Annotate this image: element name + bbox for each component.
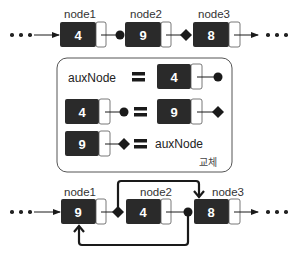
bottom-link-diamond-icon	[112, 206, 124, 218]
bottom-node1-box	[61, 199, 106, 224]
bottom-node2-label: node2	[140, 187, 172, 199]
row2-circle-icon	[120, 108, 129, 117]
row2-left-node-value: 4	[78, 106, 85, 119]
bottom-node1-value: 9	[74, 206, 81, 219]
bottom-node2-value: 4	[139, 206, 146, 219]
row3-left-node-value: 9	[78, 138, 85, 151]
row3-left-node-box	[65, 131, 110, 156]
row2-left-node-box	[65, 99, 110, 124]
bottom-node3-box	[194, 199, 240, 224]
swap-caption: 교체	[199, 158, 217, 168]
diagram-graphics	[0, 0, 298, 257]
bottom-link-circle-icon	[184, 208, 193, 217]
bottom-node1-label: node1	[64, 187, 96, 199]
top-node3-box	[193, 22, 240, 47]
bottom-node3-value: 8	[207, 206, 214, 219]
top-link-circle-icon	[116, 31, 125, 40]
top-node2-label: node2	[130, 9, 162, 21]
bottom-node2-box	[126, 199, 171, 224]
row3-aux-node-text: auxNode	[155, 138, 203, 150]
top-link-diamond-icon	[180, 29, 192, 41]
top-node1-value: 4	[74, 29, 81, 42]
top-node3-value: 8	[207, 29, 214, 42]
bottom-node3-label: node3	[212, 187, 244, 199]
top-node2-value: 9	[139, 29, 146, 42]
top-node2-box	[125, 22, 171, 47]
row1-circle-icon	[214, 73, 223, 82]
row1-right-node-value: 4	[170, 71, 177, 84]
row1-right-node-box	[157, 64, 202, 89]
top-node1-box	[60, 22, 106, 47]
swap-nodes-diagram: node1 node2 node3 4 9 8 auxNode 4 4 9 9 …	[0, 0, 298, 257]
top-node3-label: node3	[198, 9, 230, 21]
row2-right-node-box	[157, 99, 202, 124]
row1-aux-node-text: auxNode	[68, 72, 116, 84]
top-node1-label: node1	[64, 9, 96, 21]
row2-right-node-value: 9	[170, 106, 177, 119]
